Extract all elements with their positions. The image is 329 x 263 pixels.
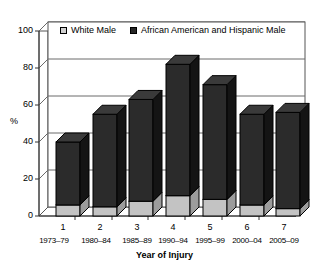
bar-segment-white-male-front [240,205,264,216]
bar-segment-minority-male-side [300,103,309,208]
chart-container: 100 80 60 40 20 0 % White Male African A… [0,0,329,263]
bar-segment-minority-male-side [80,133,89,205]
x-tick-year-2: 1980–84 [75,236,117,245]
x-tick-year-7: 2005–09 [263,236,305,245]
bar-segment-white-male-front [166,196,190,216]
bar-group-5 [203,76,236,216]
bar-segment-minority-male-front [276,112,300,208]
bar-segment-minority-male-front [203,85,227,200]
bar-group-4 [166,55,199,216]
x-tick-num-3: 3 [117,222,157,232]
x-tick-num-5: 5 [190,222,230,232]
bar-segment-white-male-front [56,205,80,216]
bar-segment-minority-male-side [190,55,199,195]
x-tick-num-4: 4 [153,222,193,232]
bar-group-2 [93,105,126,216]
x-tick-num-1: 1 [43,222,83,232]
bar-group-6 [240,105,273,216]
bar-segment-minority-male-front [56,142,80,205]
bar-segment-minority-male-front [240,114,264,205]
bar-segment-minority-male-side [227,76,236,200]
x-tick-year-4: 1990–94 [152,236,194,245]
x-tick-num-2: 2 [80,222,120,232]
bar-segment-minority-male-side [264,105,273,205]
bar-segment-minority-male-front [166,64,190,195]
bar-segment-minority-male-front [93,114,117,207]
bar-segment-minority-male-front [129,99,153,201]
x-tick-year-5: 1995–99 [189,236,231,245]
bar-segment-white-male-front [203,199,227,216]
bar-group-1 [56,133,89,216]
bar-segment-white-male-front [129,201,153,216]
x-tick-num-6: 6 [227,222,267,232]
bar-segment-minority-male-side [117,105,126,207]
bar-group-7 [276,103,309,216]
bar-segment-white-male-front [93,207,117,216]
x-tick-year-6: 2000–04 [226,236,268,245]
x-tick-num-7: 7 [264,222,304,232]
bar-group-3 [129,90,162,216]
x-tick-year-1: 1973–79 [33,236,75,245]
bar-segment-minority-male-side [153,90,162,201]
bar-segment-white-male-front [276,209,300,216]
x-axis-title: Year of Injury [0,250,329,260]
